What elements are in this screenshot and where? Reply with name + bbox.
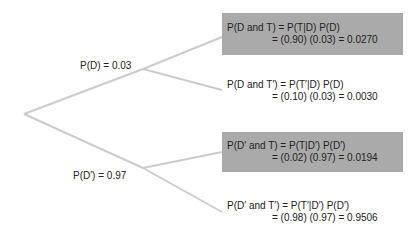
outcome-d-prime-and-t-prime: P(D′ and T′) = P(T′|D′) P(D′) = (0.98) (… [227,200,378,224]
outcome-d-and-t-prime: P(D and T′) = P(T′|D) P(D) = (0.10) (0.0… [227,79,378,103]
outcome-line2: = (0.10) (0.03) = 0.0030 [227,91,378,103]
outcome-line2: = (0.02) (0.97) = 0.0194 [227,152,378,164]
outcome-d-prime-and-t: P(D′ and T) = P(T|D′) P(D′) = (0.02) (0.… [227,140,378,164]
outcome-line1: P(D′ and T′) = P(T′|D′) P(D′) [227,200,349,211]
outcome-d-and-t: P(D and T) = P(T|D) P(D) = (0.90) (0.03)… [227,22,378,46]
outcome-line2: = (0.90) (0.03) = 0.0270 [227,34,378,46]
branch-label-d-prime: P(D′) = 0.97 [73,170,126,182]
outcome-line2: = (0.98) (0.97) = 0.9506 [227,212,378,224]
outcome-line1: P(D and T′) = P(T′|D) P(D) [227,79,343,90]
branch-label-d: P(D) = 0.03 [80,60,131,72]
outcome-line1: P(D and T) = P(T|D) P(D) [227,22,340,33]
outcome-line1: P(D′ and T) = P(T|D′) P(D′) [227,140,345,151]
